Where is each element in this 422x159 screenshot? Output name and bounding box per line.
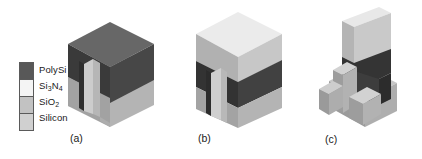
legend-label-si3n4-si: Si: [39, 80, 48, 91]
panel-a: (a): [62, 22, 160, 130]
trench-notch-a: [79, 59, 100, 117]
panel-c: (c): [317, 7, 409, 131]
panel-b-drawing: [190, 10, 290, 130]
caption-c: (c): [325, 133, 337, 145]
panel-a-drawing: [62, 22, 160, 130]
legend-label-sio2-sym: SiO: [39, 96, 55, 107]
materials-legend: PolySi Si3N4 SiO2 Silicon: [19, 62, 68, 131]
legend-label-si3n4-sub1: 3: [48, 85, 52, 92]
legend-swatch-silicon: [20, 114, 33, 130]
legend-label-sio2-sub: 2: [55, 101, 59, 108]
legend-swatch-column: [19, 62, 34, 131]
legend-swatch-polysi: [20, 63, 33, 80]
legend-label-si3n4-n: N: [52, 80, 59, 91]
panel-c-drawing: [317, 7, 409, 131]
legend-swatch-sio2: [20, 97, 33, 114]
panel-b: (b): [190, 10, 290, 130]
caption-b: (b): [198, 132, 211, 144]
legend-swatch-si3n4: [20, 80, 33, 97]
caption-a: (a): [70, 132, 83, 144]
trench-notch-b: [206, 68, 227, 123]
process-figure: PolySi Si3N4 SiO2 Silicon: [0, 0, 422, 159]
